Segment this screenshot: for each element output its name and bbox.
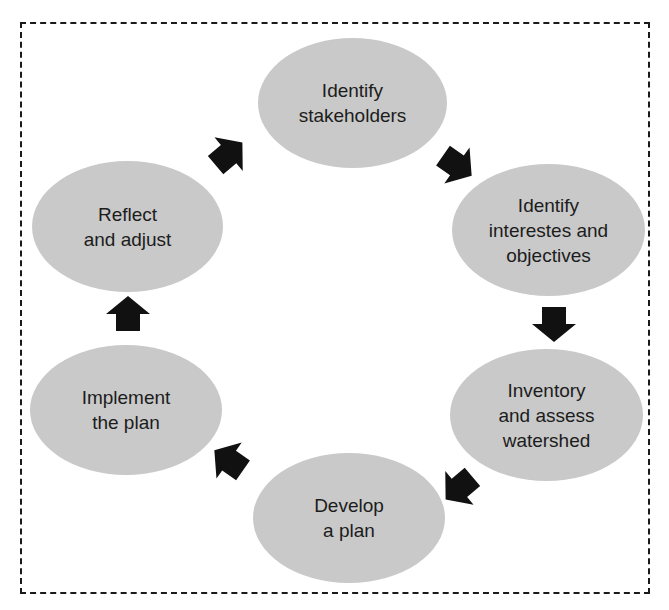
node-label-line: Inventory (498, 378, 594, 403)
node-label-line: the plan (82, 410, 171, 435)
node-inventory-assess: Inventory and assess watershed (450, 349, 643, 481)
arrow-interests-to-inventory-icon (532, 307, 576, 342)
node-identify-stakeholders: Identify stakeholders (258, 38, 447, 168)
arrow-reflect-to-stakeholders-icon (201, 126, 256, 182)
node-label-line: and adjust (84, 227, 172, 252)
node-label-line: objectives (489, 243, 608, 268)
node-label-line: Reflect (84, 202, 172, 227)
arrow-implement-to-reflect-icon (106, 296, 150, 331)
node-label-line: Identify (299, 78, 407, 103)
node-develop-plan: Develop a plan (253, 453, 445, 583)
node-label-line: Implement (82, 385, 171, 410)
node-label-line: Develop (314, 493, 384, 518)
node-label-line: Identify (489, 193, 608, 218)
node-label-line: and assess (498, 403, 594, 428)
node-label-line: stakeholders (299, 103, 407, 128)
node-identify-interests: Identify interestes and objectives (452, 164, 645, 296)
node-implement-plan: Implement the plan (30, 345, 222, 475)
node-label-line: a plan (314, 518, 384, 543)
node-reflect-adjust: Reflect and adjust (32, 161, 223, 292)
node-label-line: watershed (498, 428, 594, 453)
node-label-line: interestes and (489, 218, 608, 243)
